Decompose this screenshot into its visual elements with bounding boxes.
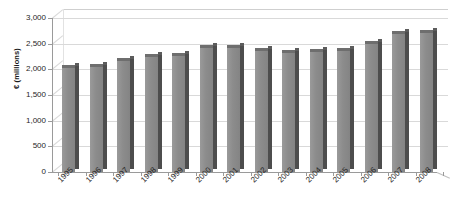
bar-top-3d	[255, 48, 268, 51]
bar-top-3d	[337, 48, 350, 51]
bar[interactable]	[200, 45, 218, 172]
bar[interactable]	[310, 49, 328, 172]
bar-face	[227, 45, 240, 172]
bar[interactable]	[255, 48, 273, 172]
bar-side-3d	[75, 65, 79, 169]
bar-face	[420, 30, 433, 172]
bar-face	[90, 64, 103, 172]
y-tick-label: 500	[2, 142, 46, 150]
bar-side-3d	[103, 64, 107, 169]
bar-face	[255, 48, 268, 172]
bar-series	[52, 18, 448, 172]
bar-side-3d	[130, 58, 134, 169]
bar-top-corner-3d	[158, 52, 162, 55]
bar-top-3d	[227, 45, 240, 48]
bar-face	[337, 48, 350, 172]
bar-side-3d	[323, 49, 327, 169]
bar-side-3d	[378, 41, 382, 169]
bar[interactable]	[337, 48, 355, 172]
bar-face	[117, 58, 130, 172]
y-tick-label: 1,000	[2, 117, 46, 125]
bar-top-corner-3d	[433, 28, 437, 31]
bar[interactable]	[145, 54, 163, 172]
bar-side-3d	[268, 48, 272, 169]
bar-top-corner-3d	[213, 43, 217, 46]
bar-top-corner-3d	[268, 46, 272, 49]
y-tick-label: 2,000	[2, 65, 46, 73]
bar-side-3d	[350, 48, 354, 169]
bar[interactable]	[392, 31, 410, 172]
bar[interactable]	[62, 65, 80, 172]
bar-top-corner-3d	[295, 48, 299, 51]
bar-top-3d	[145, 54, 158, 57]
x-axis-line	[52, 172, 437, 173]
bar-side-3d	[213, 45, 217, 169]
y-tick-label: 0	[2, 168, 46, 176]
bar-face	[200, 45, 213, 172]
bar-face	[172, 53, 185, 172]
bar-top-corner-3d	[240, 43, 244, 46]
y-tick-label: 1,500	[2, 91, 46, 99]
bar-top-3d	[62, 65, 75, 68]
bar[interactable]	[420, 30, 438, 172]
bar-chart: € (millions) 05001,0001,5002,0002,5003,0…	[0, 0, 456, 211]
bar-top-corner-3d	[103, 62, 107, 65]
bar-face	[145, 54, 158, 172]
bar-face	[310, 49, 323, 172]
bar-top-corner-3d	[405, 29, 409, 32]
bar-top-3d	[282, 50, 295, 53]
bar-top-3d	[365, 41, 378, 44]
backwall-top-line	[63, 9, 448, 10]
bar-side-3d	[295, 50, 299, 169]
bar-side-3d	[405, 31, 409, 169]
bar-top-corner-3d	[75, 63, 79, 66]
y-tick-mark	[48, 172, 52, 173]
bar-face	[365, 41, 378, 172]
bar-side-3d	[185, 53, 189, 169]
bar[interactable]	[227, 45, 245, 172]
bar-top-corner-3d	[323, 47, 327, 50]
x-tick-mark	[443, 172, 444, 176]
bar[interactable]	[172, 53, 190, 172]
y-tick-label: 3,000	[2, 14, 46, 22]
bar[interactable]	[365, 41, 383, 172]
bar-top-3d	[310, 49, 323, 52]
bar-top-3d	[420, 30, 433, 33]
bar-face	[62, 65, 75, 172]
bar-top-corner-3d	[350, 46, 354, 49]
bar-top-corner-3d	[378, 39, 382, 42]
bar[interactable]	[282, 50, 300, 172]
bar-top-corner-3d	[185, 51, 189, 54]
bar-top-3d	[200, 45, 213, 48]
bar-top-3d	[172, 53, 185, 56]
bar-face	[392, 31, 405, 172]
y-tick-label: 2,500	[2, 40, 46, 48]
bar[interactable]	[90, 64, 108, 172]
bar-top-3d	[117, 58, 130, 61]
bar-top-3d	[392, 31, 405, 34]
bar[interactable]	[117, 58, 135, 172]
bar-top-corner-3d	[130, 56, 134, 59]
bar-face	[282, 50, 295, 172]
bar-top-3d	[90, 64, 103, 67]
bar-side-3d	[240, 45, 244, 169]
bar-side-3d	[158, 54, 162, 169]
bar-side-3d	[433, 30, 437, 169]
